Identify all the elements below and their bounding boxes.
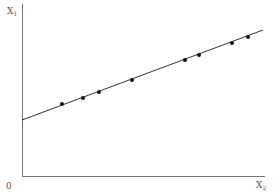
x-axis-label: X2: [256, 181, 266, 191]
data-point: [60, 102, 64, 106]
y-axis-label: X1: [7, 7, 17, 17]
scatter-plot: [0, 0, 276, 195]
data-point: [197, 53, 201, 57]
data-point: [246, 35, 250, 39]
y-axis-label-subscript: 1: [13, 10, 17, 17]
origin-label: 0: [6, 182, 12, 191]
regression-line: [22, 30, 263, 120]
data-point: [183, 58, 187, 62]
data-point: [130, 78, 134, 82]
data-point: [97, 90, 101, 94]
data-point: [230, 41, 234, 45]
x-axis-label-subscript: 2: [262, 184, 266, 191]
data-point: [81, 96, 85, 100]
